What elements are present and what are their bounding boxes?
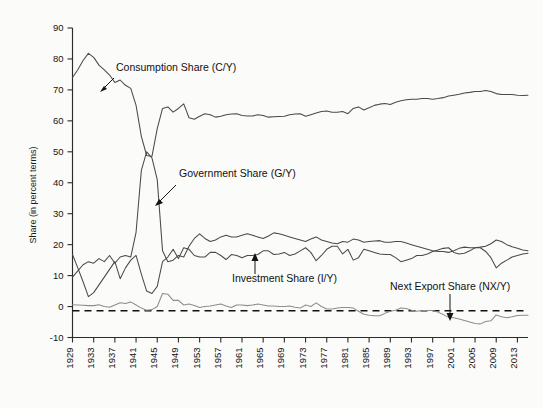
x-tick-label: 2005	[466, 348, 477, 369]
y-tick-label: 30	[53, 208, 64, 219]
x-tick-label: 1993	[402, 348, 413, 369]
x-tick-label: 1953	[191, 348, 202, 369]
x-tick-label: 1949	[169, 348, 180, 369]
x-tick-label: 1929	[64, 348, 75, 369]
y-tick-label: 50	[53, 146, 64, 157]
x-tick-label: 2009	[487, 348, 498, 369]
y-axis-label-text: Share (in percent terms)	[28, 146, 38, 243]
x-tick-label: 1957	[212, 348, 223, 369]
x-tick-label: 1941	[127, 348, 138, 369]
x-tick-label: 1937	[106, 348, 117, 369]
figure-background	[0, 0, 543, 408]
y-tick-label: 60	[53, 115, 64, 126]
y-tick-label: 0	[58, 301, 63, 312]
x-tick-label: 1973	[297, 348, 308, 369]
x-tick-label: 2001	[445, 348, 456, 369]
x-tick-label: 2013	[508, 348, 519, 369]
x-tick-label: 1945	[148, 348, 159, 369]
chart-figure: Share (in percent terms) -10010203040506…	[0, 0, 543, 408]
y-tick-label: 80	[53, 53, 64, 64]
y-tick-label: 40	[53, 177, 64, 188]
x-tick-label: 1977	[318, 348, 329, 369]
x-tick-label: 1961	[233, 348, 244, 369]
x-tick-label: 1997	[424, 348, 435, 369]
y-tick-label: 70	[53, 84, 64, 95]
y-tick-label: 10	[53, 270, 64, 281]
x-tick-label: 1985	[360, 348, 371, 369]
government-share-label: Government Share (G/Y)	[179, 167, 296, 179]
y-tick-label: -10	[50, 332, 64, 343]
y-axis-label: Share (in percent terms)	[28, 146, 38, 243]
x-tick-label: 1933	[85, 348, 96, 369]
x-tick-label: 1965	[254, 348, 265, 369]
x-tick-label: 1981	[339, 348, 350, 369]
national-accounts-shares-chart: Share (in percent terms) -10010203040506…	[0, 0, 543, 408]
x-tick-label: 1969	[275, 348, 286, 369]
consumption-share-label: Consumption Share (C/Y)	[116, 61, 236, 73]
x-tick-label: 1989	[381, 348, 392, 369]
y-tick-label: 90	[53, 22, 64, 33]
net-export-share-label: Next Export Share (NX/Y)	[390, 280, 510, 292]
investment-share-label: Investment Share (I/Y)	[232, 272, 337, 284]
y-tick-label: 20	[53, 239, 64, 250]
